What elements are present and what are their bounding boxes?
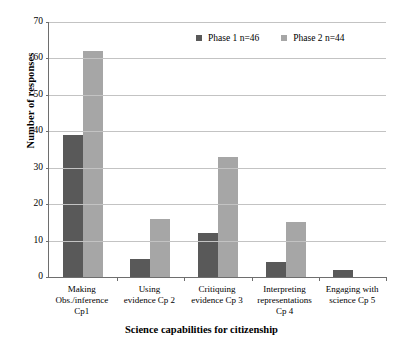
y-tick-mark-30 (46, 168, 49, 169)
y-tick-mark-20 (46, 204, 49, 205)
x-category-label-4: Interpreting representations Cp 4 (251, 284, 319, 318)
bar-series2-cat1 (83, 51, 103, 277)
x-tick-4 (319, 277, 320, 281)
gridline-40 (49, 131, 386, 132)
chart-legend: Phase 1 n=46Phase 2 n=44 (196, 33, 345, 43)
legend-entry-2: Phase 2 n=44 (281, 33, 344, 43)
y-tick-label-0: 0 (38, 272, 43, 282)
x-category-label-5: Engaging with science Cp 5 (318, 284, 386, 306)
gridline-60 (49, 58, 386, 59)
legend-label-2: Phase 2 n=44 (293, 33, 344, 43)
gridline-10 (49, 241, 386, 242)
y-tick-label-20: 20 (34, 199, 44, 209)
x-axis-title: Science capabilities for citizenship (0, 324, 403, 335)
y-tick-label-60: 60 (34, 54, 44, 64)
legend-entry-1: Phase 1 n=46 (196, 33, 259, 43)
y-tick-label-50: 50 (34, 90, 44, 100)
gridline-50 (49, 95, 386, 96)
y-tick-mark-60 (46, 58, 49, 59)
gridline-20 (49, 204, 386, 205)
y-tick-label-10: 10 (34, 236, 44, 246)
x-axis-line (49, 277, 386, 278)
y-tick-label-40: 40 (34, 127, 44, 137)
y-tick-mark-50 (46, 95, 49, 96)
x-tick-1 (117, 277, 118, 281)
bar-series1-cat2 (130, 259, 150, 277)
legend-swatch-icon-1 (196, 35, 202, 41)
y-tick-mark-0 (46, 277, 49, 278)
x-category-label-2: Using evidence Cp 2 (116, 284, 184, 306)
x-axis-category-labels: Making Obs./inference Cp1Using evidence … (48, 284, 386, 324)
y-tick-label-70: 70 (34, 17, 44, 27)
x-category-label-1: Making Obs./inference Cp1 (48, 284, 116, 318)
y-tick-mark-70 (46, 22, 49, 23)
legend-label-1: Phase 1 n=46 (208, 33, 259, 43)
legend-swatch-icon-2 (281, 35, 287, 41)
bar-series2-cat4 (286, 222, 306, 277)
x-tick-end (386, 277, 387, 281)
x-category-label-3: Critiquing evidence Cp 3 (183, 284, 251, 306)
gridline-70 (49, 22, 386, 23)
plot-area: 010203040506070 (48, 22, 386, 277)
bars-layer (49, 22, 386, 277)
gridline-30 (49, 168, 386, 169)
bar-series1-cat4 (266, 262, 286, 277)
bar-chart: Number of responses 010203040506070 Maki… (0, 0, 403, 344)
bar-series1-cat1 (63, 135, 83, 277)
x-tick-2 (184, 277, 185, 281)
bar-series2-cat3 (218, 157, 238, 277)
bar-series1-cat5 (333, 270, 353, 277)
y-tick-label-30: 30 (34, 163, 44, 173)
y-tick-mark-40 (46, 131, 49, 132)
x-tick-3 (252, 277, 253, 281)
bar-series2-cat2 (150, 219, 170, 277)
y-tick-mark-10 (46, 241, 49, 242)
